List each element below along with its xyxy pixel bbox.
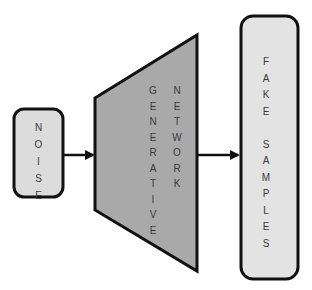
fake-samples-node: [241, 16, 298, 279]
gan-diagram: NOISEGENERATIVENETWORKFAKESAMPLES: [0, 0, 312, 290]
generator-node: [95, 35, 197, 271]
node-labels: NOISEGENERATIVENETWORKFAKESAMPLES: [35, 56, 271, 249]
